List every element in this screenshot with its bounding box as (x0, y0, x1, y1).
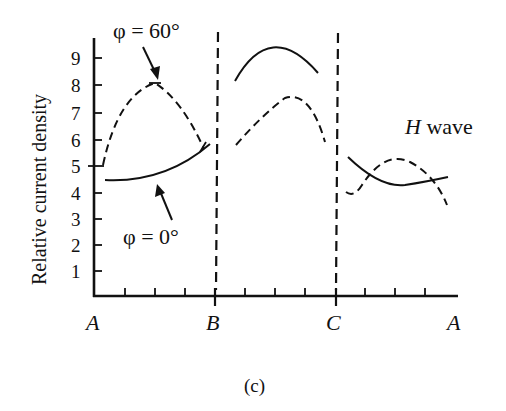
y-tick-9: 9 (71, 48, 81, 69)
dashed-curve-ca (346, 159, 447, 205)
solid-curve-bc (235, 47, 318, 81)
x-label-c: C (326, 310, 341, 335)
y-tick-2: 2 (71, 235, 81, 256)
curve-end-marks (149, 83, 206, 152)
y-tick-7: 7 (71, 103, 81, 124)
dashed-curve-ab (103, 83, 204, 165)
axes (93, 38, 458, 297)
chart: Relative current density 1 2 3 4 5 6 7 8… (0, 0, 506, 411)
series-phi-60 (103, 83, 447, 205)
x-label-b: B (206, 310, 219, 335)
dashed-curve-bc (236, 97, 325, 145)
solid-curve-ab (105, 144, 210, 180)
x-label-a-start: A (84, 310, 100, 335)
y-ticks (88, 58, 104, 271)
x-label-a-end: A (445, 310, 461, 335)
arrow-phi-0-icon (155, 184, 172, 220)
figure-caption: (c) (244, 375, 265, 397)
arrow-phi-60-icon (143, 47, 160, 80)
y-tick-labels: 1 2 3 4 5 6 7 8 9 (71, 48, 81, 282)
y-tick-3: 3 (71, 209, 81, 230)
annotation-phi-60: φ = 60° (113, 18, 180, 43)
y-tick-4: 4 (71, 183, 81, 204)
y-tick-5: 5 (71, 156, 81, 177)
divider-c (336, 33, 338, 290)
y-tick-1: 1 (71, 261, 81, 282)
annotation-phi-0: φ = 0° (123, 224, 179, 249)
y-tick-6: 6 (71, 130, 81, 151)
y-axis-label: Relative current density (28, 94, 51, 285)
divider-b (216, 32, 218, 290)
region-dividers (216, 32, 338, 290)
y-tick-8: 8 (71, 75, 81, 96)
annotation-h-wave: H wave (404, 114, 473, 139)
